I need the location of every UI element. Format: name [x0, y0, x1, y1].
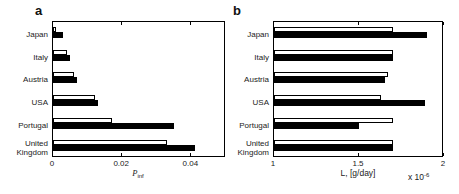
bar-a-japan-filled: [53, 32, 63, 38]
category-label-b-united-kingdom: United Kingdom: [223, 140, 269, 157]
x-tick-top-b-2: [443, 22, 444, 25]
panel-a-letter: a: [35, 4, 42, 17]
category-label-b-japan: Japan: [223, 31, 269, 40]
bar-b-austria-filled: [274, 77, 385, 83]
x-tick-label-b-1: 1: [256, 159, 290, 168]
two-panel-bar-figure: a b Pinf L, [g/day] x 10-6 JapanItalyAus…: [0, 0, 459, 194]
x-tick-a-0: [52, 153, 53, 156]
x-tick-top-a-0: [52, 22, 53, 25]
x-tick-label-a-0.04: 0.04: [173, 159, 207, 168]
bar-b-japan-filled: [274, 32, 427, 38]
category-label-a-austria: Austria: [2, 76, 48, 85]
x-tick-top-b-1: [273, 22, 274, 25]
p-subscript: inf: [137, 173, 143, 179]
bar-b-italy-filled: [274, 55, 393, 61]
bar-a-italy-filled: [53, 55, 70, 61]
bar-a-usa-filled: [53, 100, 98, 106]
x-tick-a-0.04: [190, 153, 191, 156]
category-label-a-usa: USA: [2, 99, 48, 108]
category-label-b-usa: USA: [223, 99, 269, 108]
category-label-a-japan: Japan: [2, 31, 48, 40]
x-tick-label-a-0.02: 0.02: [104, 159, 138, 168]
category-label-a-united-kingdom: United Kingdom: [2, 140, 48, 157]
bar-b-united-kingdom-filled: [274, 145, 393, 151]
panel-b-axis-scale-multiplier: x 10-6: [408, 171, 429, 182]
multiplier-exponent: -6: [424, 172, 429, 178]
bar-b-portugal-filled: [274, 123, 359, 129]
x-tick-top-b-1.5: [358, 22, 359, 25]
category-label-b-austria: Austria: [223, 76, 269, 85]
multiplier-base: x 10: [408, 172, 424, 182]
x-tick-label-b-2: 2: [426, 159, 459, 168]
panel-b-plot-area: [273, 21, 443, 157]
category-label-b-italy: Italy: [223, 53, 269, 62]
panel-a-plot-area: [52, 21, 225, 157]
x-tick-a-0.02: [121, 153, 122, 156]
bar-b-usa-filled: [274, 100, 425, 106]
x-tick-b-1.5: [358, 153, 359, 156]
x-tick-b-1: [273, 153, 274, 156]
category-label-a-italy: Italy: [2, 53, 48, 62]
panel-a-x-axis-label: Pinf: [132, 169, 144, 181]
x-tick-top-a-0.02: [121, 22, 122, 25]
x-tick-top-a-0.04: [190, 22, 191, 25]
bar-a-united-kingdom-filled: [53, 145, 195, 151]
bar-a-austria-filled: [53, 77, 77, 83]
category-label-b-portugal: Portugal: [223, 121, 269, 130]
x-tick-label-b-1.5: 1.5: [341, 159, 375, 168]
category-label-a-portugal: Portugal: [2, 121, 48, 130]
x-tick-label-a-0: 0: [35, 159, 69, 168]
bar-a-portugal-filled: [53, 123, 174, 129]
panel-b-x-axis-label: L, [g/day]: [341, 169, 376, 178]
panel-b-letter: b: [233, 4, 241, 17]
x-tick-b-2: [443, 153, 444, 156]
